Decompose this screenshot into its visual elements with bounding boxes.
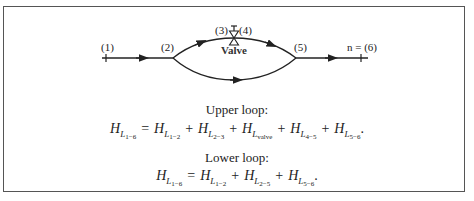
head-loss-term: HLvalve [242, 121, 272, 136]
point-label-2: (2) [161, 41, 174, 54]
head-loss-term: HL4−5 [290, 121, 316, 136]
lower-branch-pipe [173, 58, 296, 80]
point-label-5: (5) [294, 41, 307, 54]
head-loss-term: HL2−3 [198, 121, 224, 136]
valve-icon [230, 26, 239, 45]
head-loss-term: HL1−2 [200, 168, 226, 183]
point-label-3: (3) [215, 24, 228, 37]
point-label-1: (1) [101, 41, 114, 54]
head-loss-term: HL2−5 [244, 168, 270, 183]
operator: + [275, 168, 283, 183]
head-loss-term: HL1−2 [154, 121, 180, 136]
upper-loop-equation: HL1−6=HL1−2+HL2−3+HLvalve+HL4−5+HL5−6. [0, 121, 474, 141]
upper-loop-heading: Upper loop: [0, 102, 474, 118]
lower-loop-heading: Lower loop: [0, 150, 474, 166]
operator: + [185, 121, 193, 136]
head-loss-term: HL5−6 [334, 121, 360, 136]
head-loss-total: HL1−6 [110, 121, 136, 136]
point-label-4: (4) [239, 24, 252, 37]
operator: = [187, 168, 195, 183]
operator: + [277, 121, 285, 136]
head-loss-total: HL1−6 [156, 168, 182, 183]
valve-label: Valve [221, 44, 247, 56]
head-loss-term: HL5−6 [288, 168, 314, 183]
operator: = [141, 121, 149, 136]
operator: + [321, 121, 329, 136]
lower-loop-equation: HL1−6=HL1−2+HL2−5+HL5−6. [0, 168, 474, 188]
point-label-6: n = (6) [347, 41, 377, 54]
operator: + [231, 168, 239, 183]
operator: + [229, 121, 237, 136]
